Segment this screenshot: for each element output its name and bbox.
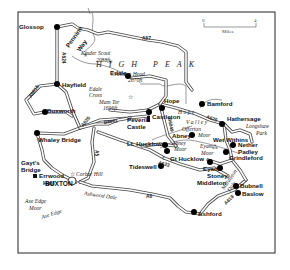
- town-dot-bamford: [199, 101, 205, 107]
- region-label: HIGH PEAK: [95, 60, 201, 69]
- town-dot-ashford: [191, 209, 197, 215]
- label-hayfield: Hayfield: [62, 81, 86, 88]
- town-dot-baslow: [235, 190, 241, 196]
- road-a6015: A6015: [28, 84, 40, 99]
- label-whaley-bridge: Whaley Bridge: [38, 136, 82, 143]
- town-dot-lt-hucklow: [162, 142, 168, 148]
- label-eyam: Eyam: [203, 165, 220, 172]
- town-dot-hayfield: [54, 81, 60, 87]
- label-kinder-height: 2088ft: [96, 57, 111, 63]
- scale-end: 4: [254, 18, 257, 23]
- label-crowden-height: 2070ft: [128, 77, 143, 83]
- label-axe-edge-moor-1: Axe Edge: [24, 198, 47, 204]
- road-a619: A619: [223, 194, 235, 206]
- label-abney: Abney: [172, 132, 191, 139]
- label-lt-hucklow: Lt. Hucklow: [127, 140, 162, 147]
- scale-start: 0: [202, 18, 205, 23]
- label-gt-hucklow: Gt Hucklow: [170, 155, 204, 162]
- stone-circle-icon: ⁂: [212, 143, 218, 150]
- label-eyam-moor-2: Moor: [200, 150, 214, 156]
- label-glossop: Glossop: [19, 23, 44, 30]
- map: 0 4 Miles: [0, 0, 290, 270]
- label-grindleford: Grindleford: [229, 154, 263, 161]
- town-dot-gt-hucklow: [164, 148, 170, 154]
- label-castleton: Castleton: [152, 113, 180, 120]
- label-buxworth: Buxworth: [47, 107, 76, 114]
- label-eyam-moor-1: Eyam: [199, 143, 213, 149]
- label-axe-edge-moor-2: Moor: [28, 205, 42, 211]
- town-dot-glossop: [54, 24, 60, 30]
- label-baslow: Baslow: [242, 190, 264, 197]
- castle-icon: [147, 116, 150, 122]
- label-hope-valley-1: H o p e: [177, 109, 195, 115]
- label-bubnell: Bubnell: [240, 182, 263, 189]
- label-mam-tor-height: 1696ft: [103, 105, 118, 111]
- road-a57: A57: [142, 36, 151, 41]
- label-gayts: Gayt's: [21, 159, 40, 166]
- label-tideswell: Tideswell: [129, 163, 157, 170]
- label-errwood: Errwood: [39, 172, 64, 179]
- scale-bar: 0 4 Miles: [202, 18, 257, 34]
- hall-icon: [33, 174, 37, 178]
- label-hathersage: Hathersage: [227, 115, 261, 122]
- town-dot-hope: [159, 105, 165, 111]
- label-longshaw-1: Longshaw: [245, 123, 269, 129]
- label-edale-cross-2: Cross: [89, 92, 102, 98]
- scale-unit: Miles: [222, 29, 233, 34]
- road-b6061: B6061: [103, 118, 118, 125]
- peak-marker-combs: ☆: [70, 170, 75, 177]
- label-stoney: Stoney: [207, 172, 228, 179]
- label-ashwood-dale: Ashwood Dale: [83, 190, 118, 201]
- town-dot-hathersage: [219, 121, 225, 127]
- label-axe-edge: Axe Edge: [40, 208, 64, 221]
- label-longshaw-2: Park: [255, 130, 267, 136]
- label-ashford: Ashford: [198, 210, 222, 217]
- peak-marker-mamtor: ☆: [128, 93, 133, 100]
- road-a624: A624: [61, 52, 66, 64]
- label-hall: Hall: [43, 179, 55, 186]
- label-kinder-scout: Kinder Scout: [80, 50, 111, 56]
- label-hope-valley-2: V a l l e y: [186, 119, 208, 125]
- label-offerton-moor-2: Moor: [197, 132, 211, 138]
- label-peveril: Peveril: [127, 116, 148, 123]
- road-a5: A5: [94, 150, 99, 156]
- label-bamford: Bamford: [207, 100, 233, 107]
- label-castle: Castle: [127, 123, 146, 130]
- label-hope: Hope: [164, 97, 180, 104]
- label-abney-moor-2: Moor: [173, 146, 187, 152]
- label-corbar-hill: Corbar Hill: [76, 171, 103, 177]
- label-nether: Nether: [238, 141, 258, 148]
- road-a6: A6: [146, 194, 152, 199]
